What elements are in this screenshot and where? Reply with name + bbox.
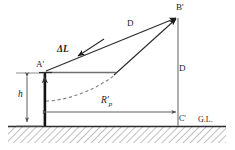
label-point-a-prime: A' xyxy=(36,60,44,69)
label-radius-rp-base: R' xyxy=(101,95,109,105)
label-distance-vertical: D xyxy=(179,64,186,73)
curve-to-b-line xyxy=(114,19,176,75)
label-distance-slant: D xyxy=(127,19,134,28)
label-point-c-prime: C' xyxy=(179,115,186,123)
label-point-b-prime: B' xyxy=(176,3,184,12)
label-radius-rp: R'p xyxy=(101,96,112,108)
label-ground-line: G.L. xyxy=(198,116,213,124)
diagram-vector-layer xyxy=(0,0,235,150)
label-delta-l: ΔL xyxy=(57,45,69,55)
label-radius-rp-subscript: p xyxy=(109,100,113,108)
label-height-h: h xyxy=(18,90,23,100)
diagram-canvas: B' D D ΔL A' h R'p C' G.L. xyxy=(0,0,235,150)
delta-l-arrow xyxy=(78,39,104,56)
ground-hatch xyxy=(8,127,226,143)
